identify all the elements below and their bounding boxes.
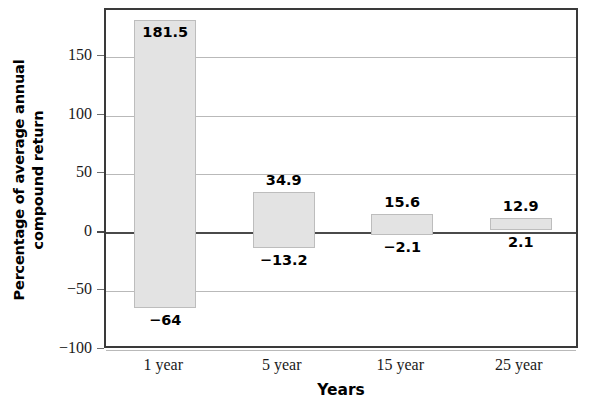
- plot-inner: 181.5−6434.9−13.215.6−2.112.92.1: [106, 10, 576, 346]
- y-axis-tick-label: 100: [0, 105, 92, 123]
- y-axis-tick-mark: [97, 289, 104, 290]
- y-axis-tick-label: −100: [0, 339, 92, 357]
- bar: [371, 214, 433, 235]
- bar: [134, 20, 196, 308]
- x-axis-title: Years: [104, 381, 578, 399]
- y-axis-tick-mark: [97, 55, 104, 56]
- bar-low-value-label: −2.1: [345, 239, 459, 255]
- y-axis-tick-label: 50: [0, 163, 92, 181]
- y-axis-tick-mark: [97, 172, 104, 173]
- bar-high-value-label: 34.9: [227, 172, 341, 188]
- plot-area: 181.5−6434.9−13.215.6−2.112.92.1: [104, 8, 578, 348]
- bar-high-value-label: 181.5: [108, 24, 222, 40]
- y-axis-tick-mark: [97, 231, 104, 233]
- y-axis-tick-label: 150: [0, 46, 92, 64]
- bar-low-value-label: 2.1: [464, 234, 578, 250]
- bar-high-value-label: 15.6: [345, 194, 459, 210]
- y-axis-tick-label: 0: [0, 222, 92, 240]
- bar-low-value-label: −13.2: [227, 252, 341, 268]
- bar: [490, 218, 552, 231]
- chart-page: Percentage of average annual compound re…: [0, 0, 596, 402]
- y-axis-tick-label: −50: [0, 280, 92, 298]
- x-axis-category-label: 25 year: [460, 356, 579, 374]
- x-axis-category-label: 15 year: [341, 356, 460, 374]
- bar-high-value-label: 12.9: [464, 198, 578, 214]
- x-axis-category-label: 5 year: [223, 356, 342, 374]
- bar-low-value-label: −64: [108, 312, 222, 328]
- bar: [253, 192, 315, 248]
- y-axis-tick-mark: [97, 114, 104, 115]
- y-axis-tick-mark: [97, 348, 104, 349]
- gridline: [106, 350, 576, 351]
- x-axis-category-label: 1 year: [104, 356, 223, 374]
